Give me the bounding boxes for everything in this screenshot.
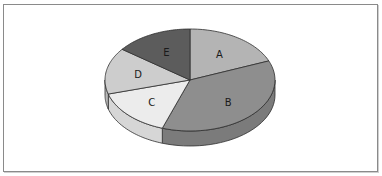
slice-label-C: C xyxy=(148,97,155,108)
pie-top-faces xyxy=(105,29,275,131)
slice-label-B: B xyxy=(225,97,232,108)
pie-chart: ABCDE xyxy=(0,0,382,176)
slice-label-E: E xyxy=(163,47,169,58)
slice-label-D: D xyxy=(134,69,142,80)
slice-label-A: A xyxy=(216,49,223,60)
